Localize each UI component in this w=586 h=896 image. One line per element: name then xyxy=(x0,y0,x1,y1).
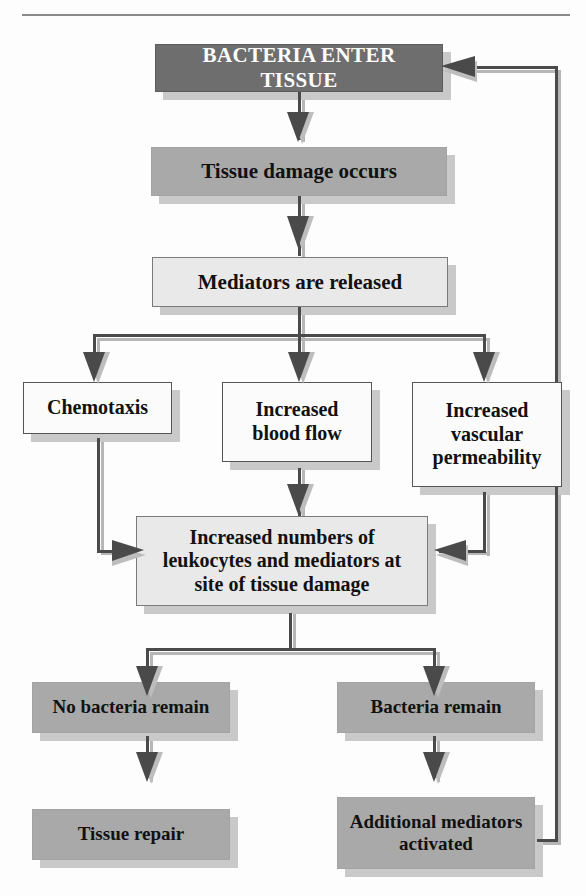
node-label: Increased numbers ofleukocytes and media… xyxy=(137,526,427,597)
node-chemotaxis[interactable]: Chemotaxis xyxy=(23,382,172,434)
arrowhead-chemotaxis-to-leukocytes xyxy=(112,538,148,568)
arrowhead-vascular-to-leukocytes xyxy=(432,538,468,568)
arrowhead-to-bacteria-remain xyxy=(422,666,452,700)
node-label: Increasedblood flow xyxy=(223,398,371,445)
arrowhead-no-bacteria-to-repair xyxy=(135,752,165,786)
arrowhead-to-chemotaxis xyxy=(82,352,112,386)
node-label: Tissue damage occurs xyxy=(152,159,446,184)
arrowhead-to-no-bacteria-remain xyxy=(135,666,165,700)
node-label: BACTERIA ENTER TISSUE xyxy=(156,43,442,93)
edge-shadow-fanout-top xyxy=(97,338,487,341)
edge-shadow-fanout-bottom xyxy=(150,652,437,655)
node-label: Increasedvascularpermeability xyxy=(413,399,561,470)
node-increased-blood-flow[interactable]: Increasedblood flow xyxy=(222,382,372,462)
arrowhead-bacteria-to-damage xyxy=(286,112,316,146)
node-label: Chemotaxis xyxy=(24,396,171,420)
flowchart-page: BACTERIA ENTER TISSUE Tissue damage occu… xyxy=(0,0,586,896)
node-label: Tissue repair xyxy=(33,823,229,845)
node-label: Additional mediatorsactivated xyxy=(338,811,534,856)
node-increased-vascular-permeability[interactable]: Increasedvascularpermeability xyxy=(412,382,562,487)
edge-fanout-bar-top xyxy=(93,334,483,337)
node-no-bacteria-remain[interactable]: No bacteria remain xyxy=(32,682,230,733)
edge-shadow-leuko-stem xyxy=(293,613,296,651)
arrowhead-blood-flow-to-leukocytes xyxy=(286,484,316,518)
edge-leukocytes-stem xyxy=(289,613,292,649)
node-tissue-damage-occurs[interactable]: Tissue damage occurs xyxy=(151,147,447,196)
node-tissue-repair[interactable]: Tissue repair xyxy=(32,809,230,860)
arrowhead-to-increased-blood-flow xyxy=(287,352,317,386)
edge-shadow-vasc-v xyxy=(487,494,490,556)
arrowhead-damage-to-mediators xyxy=(286,216,316,252)
node-mediators-are-released[interactable]: Mediators are released xyxy=(152,257,448,307)
edge-mediators-stem xyxy=(298,307,301,337)
node-bacteria-enter-tissue[interactable]: BACTERIA ENTER TISSUE xyxy=(155,44,443,92)
edge-chemotaxis-vertical xyxy=(97,438,100,553)
top-divider-rule xyxy=(22,14,570,16)
edge-shadow-fb-h2 xyxy=(473,70,561,73)
arrowhead-bacteria-to-additional xyxy=(422,752,452,786)
node-label: No bacteria remain xyxy=(33,696,229,718)
edge-feedback-horizontal-top xyxy=(470,66,558,69)
node-label: Mediators are released xyxy=(153,270,447,295)
edge-vascular-vertical xyxy=(483,492,486,553)
edge-fanout-bar-bottom xyxy=(146,648,433,651)
node-increased-leukocytes[interactable]: Increased numbers ofleukocytes and media… xyxy=(136,516,428,606)
arrowhead-to-increased-vascular-permeability xyxy=(472,352,502,386)
edge-shadow-chemo-v xyxy=(101,440,104,555)
arrowhead-feedback-to-bacteria xyxy=(441,55,477,85)
node-additional-mediators-activated[interactable]: Additional mediatorsactivated xyxy=(337,797,535,869)
